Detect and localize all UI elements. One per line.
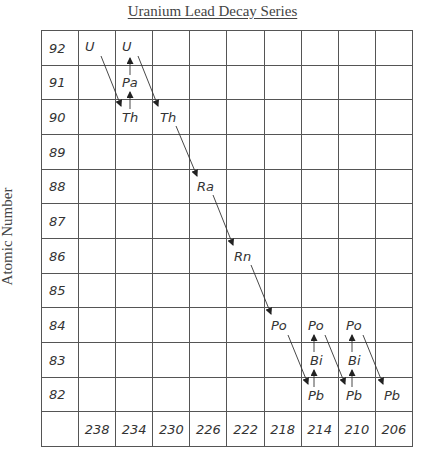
grid-cell	[376, 274, 413, 309]
grid-cell	[265, 343, 302, 378]
grid-cell	[153, 66, 190, 101]
grid-cell	[376, 100, 413, 135]
grid-cell	[376, 204, 413, 239]
mass-number-cell: 226	[190, 412, 227, 447]
grid-cell	[190, 66, 227, 101]
grid-cell	[190, 239, 227, 274]
mass-number-cell: 206	[376, 412, 413, 447]
atomic-number-cell: 90	[42, 100, 79, 135]
grid-cell	[339, 274, 376, 309]
grid-cell	[376, 66, 413, 101]
grid-cell	[79, 204, 116, 239]
grid-cell	[153, 135, 190, 170]
element-pb-206: Pb	[384, 389, 400, 402]
grid-cell	[339, 135, 376, 170]
grid-cell	[153, 378, 190, 413]
grid-cell	[265, 204, 302, 239]
grid-cell	[79, 343, 116, 378]
grid-cell	[153, 31, 190, 66]
grid-cell	[227, 308, 264, 343]
grid-cell	[190, 378, 227, 413]
element-u-234: U	[122, 40, 132, 53]
grid-cell	[116, 204, 153, 239]
element-po-214: Po	[308, 319, 324, 332]
grid-cell	[302, 100, 339, 135]
grid-cell	[116, 170, 153, 205]
element-th-234: Th	[122, 111, 138, 124]
grid-cell	[116, 239, 153, 274]
grid-cell	[190, 135, 227, 170]
element-th-230: Th	[160, 111, 176, 124]
grid-cell	[227, 343, 264, 378]
grid-cell	[265, 31, 302, 66]
element-bi-210: Bi	[348, 354, 361, 367]
atomic-number-cell: 84	[42, 308, 79, 343]
element-pb-210: Pb	[346, 389, 362, 402]
grid-cell	[265, 170, 302, 205]
element-po-210: Po	[346, 319, 362, 332]
grid-cell	[339, 100, 376, 135]
grid-cell	[190, 100, 227, 135]
grid-cell	[302, 66, 339, 101]
decay-grid: 92 91 90 89 88 87 86 85 84 83 82 238 234…	[41, 30, 413, 447]
grid-cell	[79, 239, 116, 274]
grid-cell	[116, 274, 153, 309]
grid-cell	[79, 135, 116, 170]
y-axis-label: Atomic Number	[0, 177, 16, 297]
grid-cell	[116, 378, 153, 413]
element-rn-222: Rn	[234, 250, 251, 263]
grid-cell	[79, 66, 116, 101]
grid-cell	[190, 308, 227, 343]
grid-cell	[376, 343, 413, 378]
atomic-number-cell: 83	[42, 343, 79, 378]
grid-cell	[190, 274, 227, 309]
atomic-number-cell: 82	[42, 378, 79, 413]
grid-cell	[339, 204, 376, 239]
element-pa-234: Pa	[122, 76, 138, 89]
grid-cell	[79, 170, 116, 205]
grid-cell	[227, 135, 264, 170]
grid-cell	[339, 239, 376, 274]
grid-cell	[116, 308, 153, 343]
mass-number-cell: 214	[302, 412, 339, 447]
grid-cell	[190, 31, 227, 66]
mass-number-cell: 210	[339, 412, 376, 447]
element-pb-214: Pb	[308, 389, 324, 402]
grid-cell	[227, 170, 264, 205]
grid-cell	[302, 31, 339, 66]
grid-cell	[79, 274, 116, 309]
grid-cell	[153, 170, 190, 205]
grid-cell	[116, 135, 153, 170]
grid-cell	[376, 239, 413, 274]
grid-cell	[265, 100, 302, 135]
grid-cell	[227, 66, 264, 101]
grid-cell	[265, 66, 302, 101]
grid-cell	[265, 239, 302, 274]
atomic-number-cell: 91	[42, 66, 79, 101]
atomic-number-cell: 85	[42, 274, 79, 309]
grid-cell	[116, 343, 153, 378]
element-bi-214: Bi	[310, 354, 323, 367]
atomic-number-cell: 92	[42, 31, 79, 66]
grid-cell	[302, 239, 339, 274]
atomic-number-cell: 89	[42, 135, 79, 170]
grid-cell	[376, 135, 413, 170]
grid-cell	[79, 308, 116, 343]
grid-cell	[265, 378, 302, 413]
grid-cell	[302, 135, 339, 170]
atomic-number-cell: 87	[42, 204, 79, 239]
mass-number-cell: 222	[227, 412, 264, 447]
grid-cell	[339, 66, 376, 101]
atomic-number-cell: 88	[42, 170, 79, 205]
grid-cell	[79, 100, 116, 135]
grid-cell	[190, 343, 227, 378]
grid-cell	[153, 239, 190, 274]
grid-cell	[79, 378, 116, 413]
grid-cell	[339, 31, 376, 66]
grid-cell	[227, 100, 264, 135]
grid-cell	[376, 308, 413, 343]
element-po-218: Po	[271, 319, 287, 332]
grid-cell	[227, 204, 264, 239]
grid-cell	[153, 204, 190, 239]
mass-number-cell: 218	[265, 412, 302, 447]
